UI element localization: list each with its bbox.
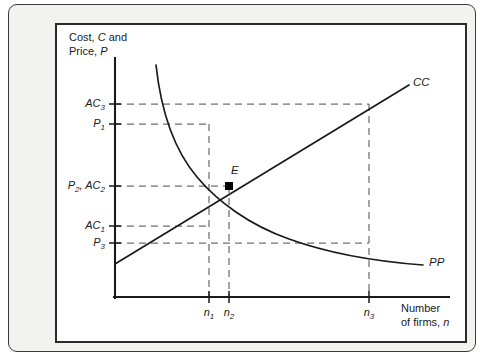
figure-root: Cost, C and Price, P Number of firms, n … bbox=[0, 0, 486, 361]
x-axis-title-line2: of firms, n bbox=[401, 316, 449, 328]
y-axis-title-line1: Cost, C and bbox=[69, 31, 127, 43]
x-tick-label-n3: n3 bbox=[355, 306, 383, 320]
y-tick-label-ac3: AC3 bbox=[61, 97, 105, 111]
curve-pp bbox=[156, 65, 423, 265]
curve-cc bbox=[115, 85, 409, 264]
x-axis-title-line1: Number bbox=[401, 302, 440, 314]
figure-outer-panel: Cost, C and Price, P Number of firms, n … bbox=[8, 4, 476, 352]
equilibrium-point-label: E bbox=[231, 164, 239, 177]
economics-plot bbox=[57, 25, 465, 341]
y-axis-title-line2: Price, P bbox=[69, 45, 108, 57]
chart-frame: Cost, C and Price, P Number of firms, n … bbox=[55, 23, 467, 343]
curve-label-pp: PP bbox=[429, 256, 444, 269]
y-tick-label-p2-ac2: P2, AC2 bbox=[39, 179, 105, 193]
equilibrium-point-marker bbox=[225, 182, 233, 190]
y-tick-label-ac1: AC1 bbox=[61, 219, 105, 233]
y-tick-label-p1: P1 bbox=[61, 117, 105, 131]
x-tick-label-n2: n2 bbox=[215, 306, 243, 320]
y-tick-label-p3: P3 bbox=[61, 236, 105, 250]
y-axis-title: Cost, C and Price, P bbox=[69, 31, 127, 58]
curve-label-cc: CC bbox=[413, 76, 430, 89]
x-axis-title: Number of firms, n bbox=[401, 302, 449, 329]
